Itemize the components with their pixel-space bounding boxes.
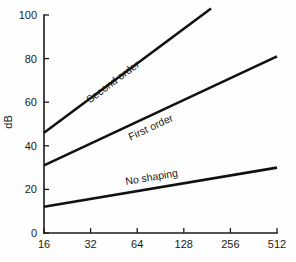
y-axis-tick-labels: 020406080100: [19, 9, 37, 239]
y-tick-label-80: 80: [25, 53, 37, 65]
y-tick-label-40: 40: [25, 140, 37, 152]
series-inline-labels: Second orderFirst orderNo shaping: [84, 58, 179, 187]
x-tick-label-128: 128: [175, 238, 193, 250]
series-label-second-order: Second order: [84, 58, 142, 106]
y-tick-label-100: 100: [19, 9, 37, 21]
x-tick-label-256: 256: [221, 238, 239, 250]
noise-shaping-chart: 020406080100 163264128256512 dB Second o…: [0, 0, 296, 262]
series-line-first-order: [44, 56, 277, 165]
x-tick-label-64: 64: [131, 238, 143, 250]
x-tick-label-16: 16: [38, 238, 50, 250]
x-tick-label-32: 32: [84, 238, 96, 250]
x-axis-tick-labels: 163264128256512: [38, 238, 286, 250]
y-tick-label-20: 20: [25, 183, 37, 195]
x-tick-label-512: 512: [268, 238, 286, 250]
y-tick-label-60: 60: [25, 96, 37, 108]
y-tick-label-0: 0: [31, 227, 37, 239]
chart-plot-area: 020406080100 163264128256512 dB Second o…: [0, 0, 296, 262]
y-axis-title: dB: [2, 115, 14, 128]
series-label-no-shaping: No shaping: [124, 166, 179, 187]
